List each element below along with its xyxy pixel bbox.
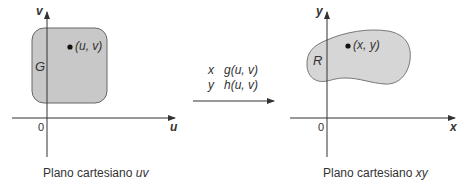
transform-line-1: xg(u, v) bbox=[208, 63, 258, 77]
caption-uv-text: Plano cartesiano bbox=[43, 166, 136, 180]
caption-xy: Plano cartesiano xy bbox=[323, 166, 428, 180]
transform-y-var: y bbox=[208, 78, 214, 92]
transform-x-var: x bbox=[208, 63, 214, 77]
point-uv-label: (u, v) bbox=[75, 39, 102, 53]
region-g-label: G bbox=[35, 59, 45, 74]
y-axis-label: y bbox=[316, 4, 323, 18]
transform-line-2: yh(u, v) bbox=[208, 78, 258, 92]
region-r-label: R bbox=[313, 53, 322, 68]
origin-label-left: 0 bbox=[38, 121, 44, 133]
point-xy-label: (x, y) bbox=[353, 38, 380, 52]
diagram-canvas bbox=[0, 0, 461, 186]
caption-xy-var: xy bbox=[416, 166, 428, 180]
u-axis-label: u bbox=[170, 120, 177, 134]
origin-label-right: 0 bbox=[318, 121, 324, 133]
v-axis-label: v bbox=[36, 4, 43, 18]
caption-uv: Plano cartesiano uv bbox=[43, 166, 148, 180]
caption-xy-text: Plano cartesiano bbox=[323, 166, 416, 180]
x-axis-label: x bbox=[450, 120, 457, 134]
point-xy bbox=[345, 43, 350, 48]
transform-h-expr: h(u, v) bbox=[224, 78, 258, 92]
transform-g-expr: g(u, v) bbox=[224, 63, 258, 77]
point-uv bbox=[67, 44, 72, 49]
caption-uv-var: uv bbox=[136, 166, 149, 180]
